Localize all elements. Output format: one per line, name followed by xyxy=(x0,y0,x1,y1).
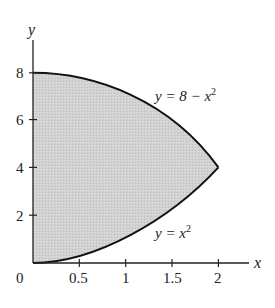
origin-label: 0 xyxy=(16,270,24,286)
y-tick-label-8: 8 xyxy=(16,65,24,81)
y-axis-label: y xyxy=(26,21,36,39)
x-tick-label-1.5: 1.5 xyxy=(163,270,182,286)
y-tick-label-2: 2 xyxy=(16,208,24,224)
x-tick-label-2: 2 xyxy=(214,270,222,286)
lower-curve-label-exp: 2 xyxy=(186,223,191,234)
x-tick-label-0.5: 0.5 xyxy=(69,270,88,286)
y-tick-label-4: 4 xyxy=(16,160,24,176)
region-diagram: 8 6 4 2 0 0.5 1 1.5 2 y x y = 8 − x2 y =… xyxy=(0,0,275,308)
upper-curve-label: y = 8 − x2 xyxy=(153,86,216,104)
y-tick-label-6: 6 xyxy=(16,112,24,128)
lower-curve-label-text: y = x xyxy=(153,225,186,241)
lower-curve-label: y = x2 xyxy=(153,223,191,241)
upper-curve-label-text: y = 8 − x xyxy=(153,88,211,104)
x-tick-label-1: 1 xyxy=(122,270,130,286)
x-axis-label: x xyxy=(253,254,261,271)
upper-curve-label-exp: 2 xyxy=(211,86,216,97)
